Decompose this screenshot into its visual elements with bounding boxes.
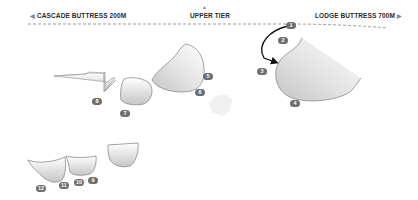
upper-tier-arrow-icon: ▲ <box>202 4 207 10</box>
rock-12 <box>28 157 66 182</box>
route-marker-10[interactable]: 10 <box>74 179 84 186</box>
route-marker-9[interactable]: 9 <box>88 177 98 184</box>
route-marker-1[interactable]: 1 <box>286 22 296 29</box>
tier-boundary-line <box>28 24 388 28</box>
route-marker-3[interactable]: 3 <box>257 68 267 75</box>
rock-lower-center <box>108 143 138 167</box>
rock-8-ledge <box>54 72 115 91</box>
rock-middle <box>152 44 204 92</box>
route-marker-6[interactable]: 6 <box>195 89 205 96</box>
route-marker-4[interactable]: 4 <box>290 100 300 107</box>
route-marker-8[interactable]: 8 <box>92 98 102 105</box>
route-marker-7[interactable]: 7 <box>120 110 130 117</box>
rock-lodge-buttress <box>276 38 361 101</box>
cascade-buttress-label[interactable]: ◀ CASCADE BUTTRESS 200M <box>30 12 126 19</box>
right-arrow-icon: ▶ <box>397 13 402 19</box>
faint-rock <box>209 94 232 116</box>
rock-9-11 <box>66 156 96 175</box>
route-marker-11[interactable]: 11 <box>59 182 69 189</box>
cascade-buttress-text: CASCADE BUTTRESS 200M <box>37 12 126 19</box>
left-arrow-icon: ◀ <box>30 13 35 19</box>
lodge-buttress-label[interactable]: LODGE BUTTRESS 700M ▶ <box>315 12 402 19</box>
route-marker-5[interactable]: 5 <box>203 73 213 80</box>
route-marker-2[interactable]: 2 <box>278 37 288 44</box>
upper-tier-label: UPPER TIER <box>190 12 230 19</box>
lodge-buttress-text: LODGE BUTTRESS 700M <box>315 12 395 19</box>
rock-7 <box>121 78 152 105</box>
route-marker-12[interactable]: 12 <box>36 185 46 192</box>
topo-diagram <box>0 0 418 200</box>
